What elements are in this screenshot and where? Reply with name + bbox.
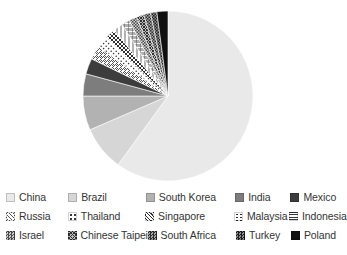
legend-item-china[interactable]: China	[6, 192, 68, 203]
legend-item-russia[interactable]: Russia	[6, 211, 68, 222]
legend-label-chinese-taipei: Chinese Taipei	[81, 230, 148, 241]
legend-swatch-singapore	[145, 212, 154, 221]
legend-swatch-india	[235, 193, 244, 202]
legend-label-singapore: Singapore	[158, 211, 205, 222]
legend-label-thailand: Thailand	[81, 211, 120, 222]
legend-swatch-poland	[291, 231, 300, 240]
pie-plot-area	[0, 0, 343, 184]
legend-swatch-turkey	[236, 231, 245, 240]
legend-swatch-chinese-taipei	[68, 231, 77, 240]
legend-swatch-russia	[6, 212, 15, 221]
legend-swatch-mexico	[290, 193, 299, 202]
legend-item-mexico[interactable]: Mexico	[290, 192, 339, 203]
legend-row: Israel Chinese Taipei South Africa Turke…	[6, 226, 339, 245]
legend-item-brazil[interactable]: Brazil	[68, 192, 146, 203]
legend-label-indonesia: Indonesia	[302, 211, 347, 222]
pie-svg	[0, 0, 343, 184]
legend-label-poland: Poland	[304, 230, 336, 241]
chart-legend: China Brazil South Korea India Mexico	[0, 186, 343, 255]
legend-swatch-brazil	[68, 193, 77, 202]
legend-label-brazil: Brazil	[81, 192, 107, 203]
legend-label-south-korea: South Korea	[159, 192, 216, 203]
legend-item-singapore[interactable]: Singapore	[145, 211, 234, 222]
pie-slice-group	[83, 11, 253, 181]
legend-item-thailand[interactable]: Thailand	[68, 211, 145, 222]
legend-swatch-israel	[6, 231, 15, 240]
legend-label-russia: Russia	[19, 211, 51, 222]
legend-row: Russia Thailand Singapore Malaysia Indon…	[6, 207, 339, 226]
legend-item-malaysia[interactable]: Malaysia	[234, 211, 289, 222]
legend-item-india[interactable]: India	[235, 192, 290, 203]
legend-label-china: China	[19, 192, 46, 203]
legend-item-indonesia[interactable]: Indonesia	[289, 211, 339, 222]
legend-swatch-thailand	[68, 212, 77, 221]
legend-item-south-africa[interactable]: South Africa	[148, 230, 237, 241]
legend-swatch-south-korea	[146, 193, 155, 202]
legend-item-chinese-taipei[interactable]: Chinese Taipei	[68, 230, 148, 241]
legend-swatch-indonesia	[289, 212, 298, 221]
legend-swatch-china	[6, 193, 15, 202]
legend-label-turkey: Turkey	[249, 230, 280, 241]
legend-label-israel: Israel	[19, 230, 44, 241]
legend-item-israel[interactable]: Israel	[6, 230, 68, 241]
legend-swatch-malaysia	[234, 212, 243, 221]
legend-label-india: India	[248, 192, 270, 203]
legend-item-poland[interactable]: Poland	[291, 230, 339, 241]
legend-swatch-south-africa	[148, 231, 157, 240]
legend-item-south-korea[interactable]: South Korea	[146, 192, 235, 203]
legend-label-malaysia: Malaysia	[247, 211, 288, 222]
legend-label-south-africa: South Africa	[161, 230, 216, 241]
legend-label-mexico: Mexico	[303, 192, 336, 203]
legend-item-turkey[interactable]: Turkey	[236, 230, 291, 241]
legend-row: China Brazil South Korea India Mexico	[6, 188, 339, 207]
